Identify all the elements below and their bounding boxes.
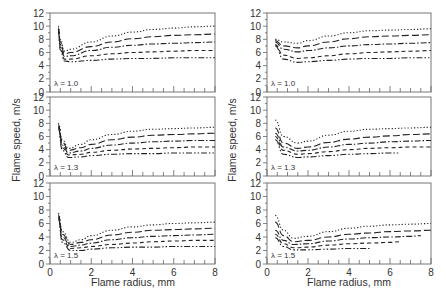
y-tick-label: 10	[33, 191, 45, 202]
x-tick-label: 0	[47, 267, 53, 278]
flame-speed-chart: 024681012λ = 1.0024681012λ = 1.302468101…	[0, 0, 446, 294]
series-curve-1	[275, 215, 431, 238]
y-tick-label: 10	[250, 191, 262, 202]
panel-right-bottom: 02468101202468λ = 1.5	[250, 178, 434, 279]
y-tick-label: 10	[33, 105, 45, 116]
y-tick-label: 10	[250, 21, 262, 32]
series-curve-1	[275, 120, 431, 143]
y-tick-label: 8	[255, 205, 261, 216]
y-tick-label: 12	[33, 92, 45, 103]
series-curve-2	[58, 27, 215, 53]
series-curve-1	[275, 29, 431, 43]
y-tick-label: 8	[38, 118, 44, 129]
y-tick-label: 6	[255, 218, 261, 229]
y-tick-label: 12	[33, 178, 45, 189]
y-tick-label: 0	[255, 259, 261, 270]
y-tick-label: 2	[255, 157, 261, 168]
x-tick-label: 8	[428, 267, 434, 278]
y-tick-label: 4	[38, 232, 44, 243]
y-axis-label-left: Flame speed, m/s	[10, 98, 22, 181]
panel-left-middle: 024681012λ = 1.3	[33, 92, 215, 182]
y-tick-label: 6	[38, 47, 44, 58]
y-tick-label: 8	[255, 118, 261, 129]
panel-left-top: 024681012λ = 1.0	[33, 8, 215, 98]
panel-right-top: 024681012λ = 1.0	[250, 8, 431, 98]
lambda-annotation: λ = 1.5	[271, 251, 296, 260]
series-curve-4	[275, 137, 431, 155]
x-axis-label-right: Flame radius, mm	[307, 276, 391, 288]
y-tick-label: 2	[255, 245, 261, 256]
y-tick-label: 2	[38, 157, 44, 168]
y-tick-label: 4	[255, 232, 261, 243]
series-curve-3	[58, 29, 215, 57]
lambda-annotation: λ = 1.3	[54, 163, 79, 172]
series-curve-1	[58, 123, 215, 148]
series-curve-5	[58, 219, 215, 251]
lambda-annotation: λ = 1.5	[54, 251, 79, 260]
y-tick-label: 10	[250, 105, 262, 116]
x-tick-label: 0	[264, 267, 270, 278]
y-tick-label: 10	[33, 21, 45, 32]
y-tick-label: 12	[33, 8, 45, 19]
lambda-annotation: λ = 1.0	[271, 79, 296, 88]
lambda-annotation: λ = 1.3	[271, 163, 296, 172]
y-axis-label-right: Flame speed, m/s	[226, 98, 238, 181]
y-tick-label: 8	[255, 34, 261, 45]
y-tick-label: 12	[250, 92, 262, 103]
y-tick-label: 6	[38, 218, 44, 229]
series-curve-3	[275, 230, 421, 244]
y-tick-label: 8	[38, 205, 44, 216]
y-tick-label: 4	[38, 144, 44, 155]
panel-right-middle: 024681012λ = 1.3	[250, 92, 431, 182]
series-curve-3	[275, 42, 431, 52]
series-curve-4	[58, 217, 215, 248]
panel-left-bottom: 02468101202468λ = 1.5	[33, 178, 218, 279]
y-tick-label: 12	[250, 178, 262, 189]
x-axis-label-left: Flame radius, mm	[91, 276, 175, 288]
y-tick-label: 6	[255, 131, 261, 142]
y-tick-label: 12	[250, 8, 262, 19]
y-tick-label: 6	[38, 131, 44, 142]
y-tick-label: 4	[255, 144, 261, 155]
y-tick-label: 4	[38, 60, 44, 71]
series-curve-2	[275, 128, 431, 148]
lambda-annotation: λ = 1.0	[54, 79, 79, 88]
y-tick-label: 4	[255, 60, 261, 71]
y-tick-label: 2	[255, 73, 261, 84]
y-tick-label: 6	[255, 47, 261, 58]
series-curve-5	[58, 129, 215, 158]
y-tick-label: 2	[38, 245, 44, 256]
x-tick-label: 8	[212, 267, 218, 278]
y-tick-label: 0	[38, 259, 44, 270]
y-tick-label: 8	[38, 34, 44, 45]
series-curve-5	[58, 31, 215, 61]
y-tick-label: 2	[38, 73, 44, 84]
